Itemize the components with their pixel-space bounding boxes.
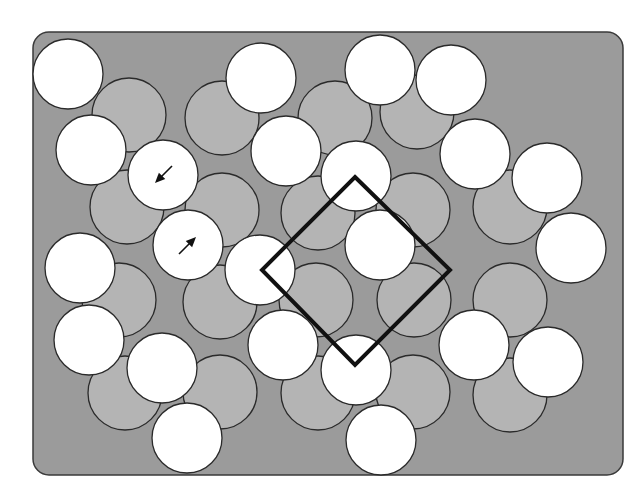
white-circle	[513, 327, 583, 397]
white-circle	[345, 35, 415, 105]
circle-packing-diagram	[0, 0, 630, 504]
arrow-circle	[128, 140, 198, 210]
white-circle	[226, 43, 296, 113]
white-circle	[416, 45, 486, 115]
white-circle	[512, 143, 582, 213]
arrow-circle	[153, 210, 223, 280]
white-circle	[536, 213, 606, 283]
white-circle	[439, 310, 509, 380]
white-circle	[33, 39, 103, 109]
white-circle	[45, 233, 115, 303]
white-circle	[54, 305, 124, 375]
white-circle	[56, 115, 126, 185]
white-circle	[127, 333, 197, 403]
white-circle	[345, 210, 415, 280]
figure-canvas	[0, 0, 630, 504]
white-circle	[248, 310, 318, 380]
white-circle	[346, 405, 416, 475]
white-circle	[152, 403, 222, 473]
white-circle	[440, 119, 510, 189]
white-circle	[321, 335, 391, 405]
white-circle	[251, 116, 321, 186]
